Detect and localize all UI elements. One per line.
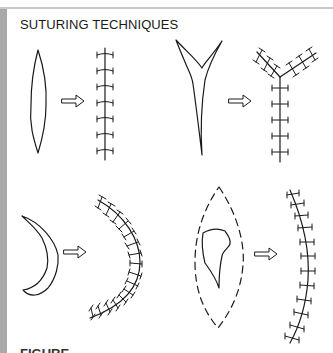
- straight-suture-line-icon: [97, 48, 113, 160]
- spindle-wound-icon: [31, 50, 47, 153]
- arrow-right-icon: [64, 246, 86, 258]
- panel-irregular-excision: [195, 187, 315, 343]
- arrow-right-icon: [62, 95, 84, 107]
- panel-y-shaped: [176, 40, 318, 162]
- arrow-right-icon: [255, 248, 277, 260]
- dashed-excision-outline-icon: [195, 187, 243, 328]
- irregular-wound-icon: [202, 229, 230, 288]
- curved-suture-line-icon: [89, 195, 142, 320]
- arrow-right-icon: [229, 95, 251, 107]
- crescent-wound-icon: [22, 216, 58, 295]
- y-wound-icon: [176, 40, 222, 155]
- suturing-diagram: [0, 0, 333, 353]
- panel-crescent: [22, 195, 142, 320]
- panel-elliptical: [31, 48, 113, 160]
- y-suture-closure-icon: [253, 47, 318, 162]
- figure-caption: FIGURE: [20, 347, 69, 353]
- gentle-curve-suture-line-icon: [285, 190, 315, 343]
